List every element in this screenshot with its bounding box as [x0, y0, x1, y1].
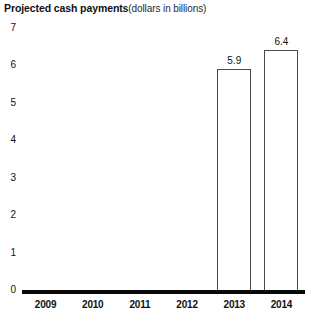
x-axis-baseline [22, 290, 305, 294]
bar [264, 50, 298, 292]
x-axis-tick-label: 2011 [129, 299, 150, 311]
bars-layer: 5.96.4 [0, 0, 314, 324]
x-axis-tick-label: 2010 [82, 299, 103, 311]
bar-value-label: 5.9 [209, 55, 259, 66]
x-axis-tick-label: 2013 [224, 299, 245, 311]
bar [217, 69, 251, 292]
x-axis: 200920102011201220132014 [0, 299, 314, 315]
x-axis-tick-label: 2012 [176, 299, 197, 311]
bar-value-label: 6.4 [256, 36, 306, 47]
bar-chart: Projected cash payments(dollars in billi… [0, 0, 314, 324]
x-axis-tick-label: 2014 [271, 299, 292, 311]
x-axis-tick-label: 2009 [35, 299, 56, 311]
